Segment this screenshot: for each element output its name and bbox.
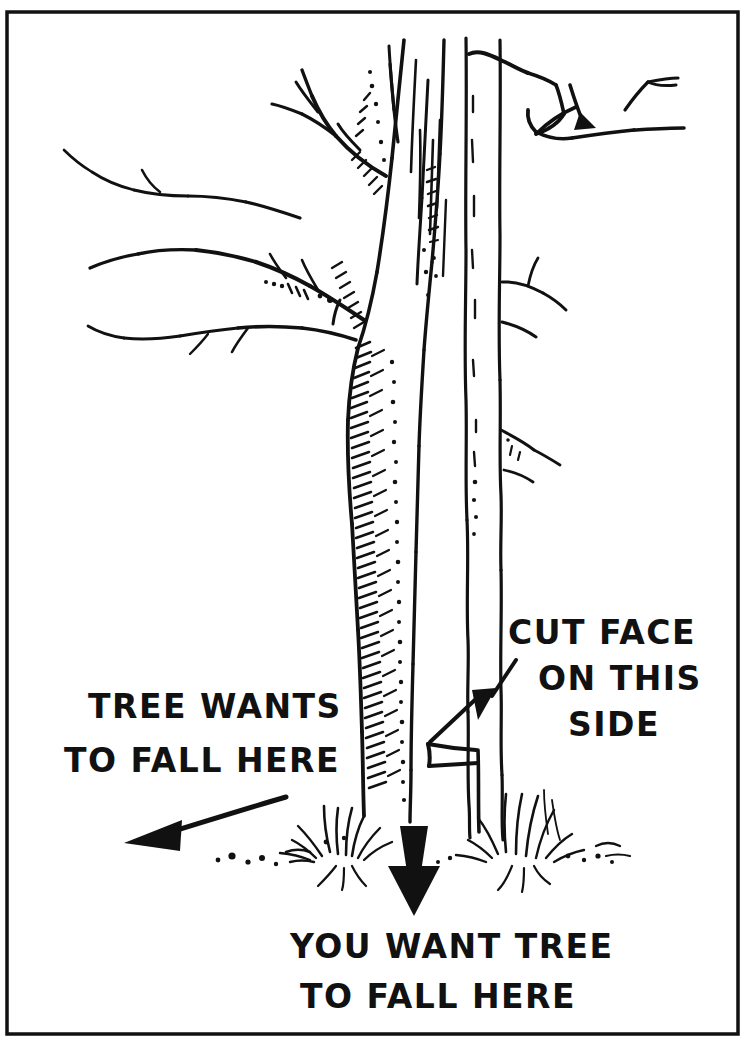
cut-notch [428,697,479,832]
tree-felling-illustration: TREE WANTS TO FALL HERE CUT FACE ON THIS… [0,0,748,1048]
you-want-line2: TO FALL HERE [300,977,576,1016]
you-want-line1: YOU WANT TREE [289,927,614,966]
label-tree-wants: TREE WANTS TO FALL HERE [64,687,342,780]
tree-wants-line2: TO FALL HERE [64,741,340,780]
notch-pointer-arrow [472,660,516,720]
label-you-want: YOU WANT TREE TO FALL HERE [289,927,614,1016]
left-arrow [124,797,286,851]
cut-face-line1: CUT FACE [508,613,696,652]
figure-root: TREE WANTS TO FALL HERE CUT FACE ON THIS… [0,0,748,1048]
cut-face-line3: SIDE [568,705,660,744]
down-arrow [388,826,440,916]
cut-face-line2: ON THIS [538,659,702,698]
tree-wants-line1: TREE WANTS [88,687,342,726]
label-cut-face: CUT FACE ON THIS SIDE [508,613,702,744]
